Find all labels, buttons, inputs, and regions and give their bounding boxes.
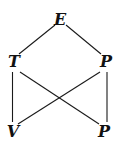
node-P-top: P [100,54,112,70]
node-E: E [54,12,66,28]
node-P-bottom: P [98,124,110,140]
edge-E-P1 [66,25,101,54]
node-V: V [7,124,19,140]
edge-E-T [19,25,55,54]
node-T: T [8,54,20,70]
lattice-diagram: E T P V P [0,0,121,147]
